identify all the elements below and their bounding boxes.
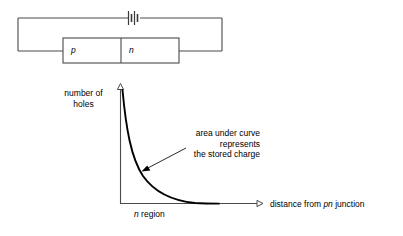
- y-axis-label-line-2: holes: [52, 99, 115, 110]
- annotation-arrowhead: [142, 165, 151, 171]
- x-axis-label-italic: pn: [323, 199, 332, 209]
- p-region-label: p: [71, 45, 76, 56]
- x-axis-arrowhead: [257, 200, 263, 206]
- n-region-axis-label-rest: region: [139, 209, 165, 219]
- x-axis-label-prefix: distance from: [270, 199, 323, 209]
- x-axis-label: distance from pn junction: [270, 199, 365, 210]
- annotation-line-3: the stored charge: [150, 149, 260, 160]
- n-region-label: n: [129, 45, 134, 56]
- annotation-line-2: represents: [150, 139, 260, 150]
- annotation-text: area under curve represents the stored c…: [150, 128, 260, 160]
- y-axis-label-line-1: number of: [52, 88, 115, 99]
- figure-canvas: p n number of holes area under curve rep…: [0, 0, 403, 236]
- pn-device-body: [63, 38, 179, 63]
- y-axis-arrowhead: [117, 84, 123, 90]
- x-axis-label-suffix: junction: [333, 199, 365, 209]
- battery-cell-icon: [129, 11, 138, 25]
- n-region-axis-label: n region: [134, 209, 165, 220]
- annotation-line-1: area under curve: [150, 128, 260, 139]
- y-axis-label: number of holes: [52, 88, 115, 109]
